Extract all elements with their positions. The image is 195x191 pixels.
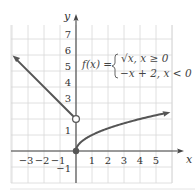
x-tick-label: 1 [89, 155, 95, 166]
formula-piece-1: √x, x ≥ 0 [121, 52, 169, 64]
y-tick-label: 5 [65, 61, 71, 72]
formula-lhs: f(x) = [81, 58, 112, 70]
formula-brace [112, 54, 118, 78]
closed-circle-point [73, 148, 79, 154]
formula-piece-2: −x + 2, x < 0 [120, 67, 192, 79]
y-tick-label: −1 [56, 163, 71, 174]
piecewise-function-graph: −3−2−112345−1134567 x y f(x) = √x, x ≥ 0… [0, 0, 195, 191]
x-tick-label: −3 [19, 155, 34, 166]
x-axis-label: x [186, 153, 193, 166]
x-tick-label: 3 [121, 155, 127, 166]
x-tick-label: 2 [105, 155, 111, 166]
y-tick-label: 3 [65, 93, 71, 104]
y-tick-label: 1 [65, 125, 71, 136]
x-tick-label: 4 [137, 155, 143, 166]
x-tick-label: −2 [35, 155, 50, 166]
y-axis-label: y [63, 10, 71, 23]
x-tick-label: 5 [153, 155, 159, 166]
y-tick-label: 7 [65, 29, 71, 40]
y-tick-label: 6 [65, 45, 71, 56]
tick-labels: −3−2−112345−1134567 [19, 29, 160, 174]
open-circle-point [73, 116, 80, 123]
function-formula: f(x) = √x, x ≥ 0 −x + 2, x < 0 [81, 52, 192, 79]
y-tick-label: 4 [65, 77, 71, 88]
